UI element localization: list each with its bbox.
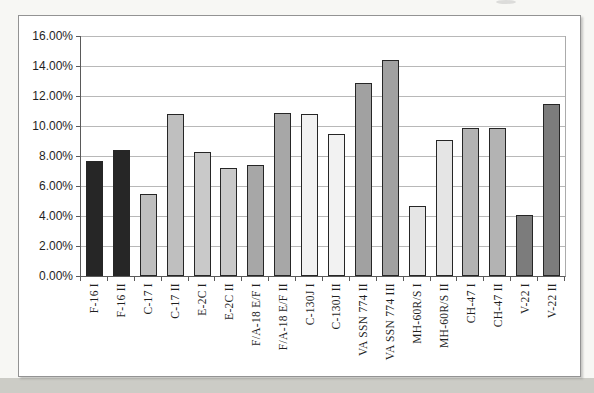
x-label-cell: C-130J II — [323, 277, 350, 374]
x-tick-label: F/A-18 E/F I — [250, 283, 262, 346]
x-label-cell: F/A-18 E/F II — [269, 277, 296, 374]
x-tick-label: F-16 I — [88, 283, 100, 313]
x-tick-label: F-16 II — [115, 283, 127, 317]
bar — [328, 134, 345, 277]
y-tick-label: 6.00% — [21, 179, 73, 193]
bar — [489, 128, 506, 277]
y-tick-label: 2.00% — [21, 239, 73, 253]
x-tick-label: MH-60R/S II — [438, 283, 450, 348]
y-tick-label: 4.00% — [21, 209, 73, 223]
x-label-cell: CH-47 II — [484, 277, 511, 374]
y-tick-mark — [76, 66, 80, 67]
bar-column — [242, 36, 269, 276]
bar — [462, 128, 479, 277]
bar-column — [538, 36, 565, 276]
bar — [355, 83, 372, 277]
x-tick-mark — [107, 277, 108, 281]
x-tick-mark — [537, 277, 538, 281]
bar — [86, 161, 103, 277]
scan-smudge — [496, 0, 516, 4]
x-label-cell: C-17 II — [162, 277, 189, 374]
x-label-cell: V-22 II — [538, 277, 565, 374]
x-tick-mark — [564, 277, 565, 281]
bar-column — [431, 36, 458, 276]
bar — [301, 114, 318, 276]
y-tick-label: 0.00% — [21, 269, 73, 283]
plot-area — [80, 36, 566, 277]
y-tick-mark — [76, 216, 80, 217]
bar-columns — [81, 36, 565, 276]
x-label-cell: E-2C II — [215, 277, 242, 374]
x-label-cell: CH-47 I — [457, 277, 484, 374]
bar-column — [350, 36, 377, 276]
chart-frame: F-16 IF-16 IIC-17 IC-17 IIE-2C IE-2C IIF… — [18, 15, 581, 377]
bar-column — [189, 36, 216, 276]
x-tick-mark — [456, 277, 457, 281]
x-tick-label: CH-47 I — [465, 283, 477, 323]
x-tick-label: C-130J II — [330, 283, 342, 329]
y-tick-mark — [76, 246, 80, 247]
bar-column — [404, 36, 431, 276]
bar-column — [269, 36, 296, 276]
x-tick-mark — [430, 277, 431, 281]
x-axis-labels: F-16 IF-16 IIC-17 IC-17 IIE-2C IE-2C IIF… — [81, 277, 565, 374]
bar-column — [135, 36, 162, 276]
x-tick-label: C-130J I — [304, 283, 316, 325]
y-tick-label: 16.00% — [21, 29, 73, 43]
bar-column — [377, 36, 404, 276]
x-tick-label: E-2C I — [196, 283, 208, 316]
x-label-cell: F/A-18 E/F I — [242, 277, 269, 374]
bar — [274, 113, 291, 277]
bar-column — [484, 36, 511, 276]
bar-column — [511, 36, 538, 276]
x-tick-mark — [188, 277, 189, 281]
y-tick-mark — [76, 126, 80, 127]
bar — [220, 168, 237, 276]
x-tick-label: C-17 II — [169, 283, 181, 319]
y-tick-label: 12.00% — [21, 89, 73, 103]
x-tick-label: V-22 II — [546, 283, 558, 318]
x-tick-mark — [161, 277, 162, 281]
x-label-cell: VA SSN 774 III — [377, 277, 404, 374]
x-tick-mark — [214, 277, 215, 281]
bar — [194, 152, 211, 277]
x-label-cell: MH-60R/S I — [404, 277, 431, 374]
x-tick-mark — [403, 277, 404, 281]
page-bottom-shadow — [0, 378, 594, 393]
bar-column — [296, 36, 323, 276]
x-tick-label: MH-60R/S I — [411, 283, 423, 344]
x-label-cell: MH-60R/S II — [431, 277, 458, 374]
x-tick-label: F/A-18 E/F II — [277, 283, 289, 350]
bar — [140, 194, 157, 277]
x-tick-mark — [295, 277, 296, 281]
bar — [247, 165, 264, 276]
x-label-cell: C-17 I — [135, 277, 162, 374]
bar-column — [215, 36, 242, 276]
y-tick-mark — [76, 96, 80, 97]
x-tick-label: C-17 I — [142, 283, 154, 315]
bar-column — [81, 36, 108, 276]
x-label-cell: V-22 I — [511, 277, 538, 374]
y-tick-label: 14.00% — [21, 59, 73, 73]
bar — [516, 215, 533, 277]
bar — [409, 206, 426, 277]
bar-column — [323, 36, 350, 276]
x-tick-mark — [376, 277, 377, 281]
y-tick-label: 10.00% — [21, 119, 73, 133]
x-label-cell: E-2C I — [189, 277, 216, 374]
x-tick-label: CH-47 II — [492, 283, 504, 327]
x-tick-label: E-2C II — [223, 283, 235, 320]
x-tick-mark — [349, 277, 350, 281]
bar — [167, 114, 184, 276]
bar-column — [162, 36, 189, 276]
bar — [436, 140, 453, 277]
x-tick-mark — [134, 277, 135, 281]
x-tick-mark — [483, 277, 484, 281]
x-label-cell: F-16 I — [81, 277, 108, 374]
y-tick-mark — [76, 186, 80, 187]
x-tick-label: V-22 I — [519, 283, 531, 314]
x-label-cell: VA SSN 774 II — [350, 277, 377, 374]
bar-column — [108, 36, 135, 276]
scanned-page: F-16 IF-16 IIC-17 IC-17 IIE-2C IE-2C IIF… — [0, 0, 594, 393]
x-tick-label: VA SSN 774 III — [384, 283, 396, 360]
